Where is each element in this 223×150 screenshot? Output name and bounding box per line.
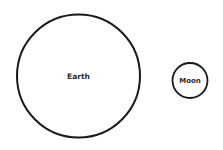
moon-node: Moon [173,63,208,98]
earth-label: Earth [67,72,90,81]
earth-node: Earth [17,15,140,138]
earth-moon-diagram: Earth Moon [0,0,223,150]
moon-label: Moon [179,77,201,85]
